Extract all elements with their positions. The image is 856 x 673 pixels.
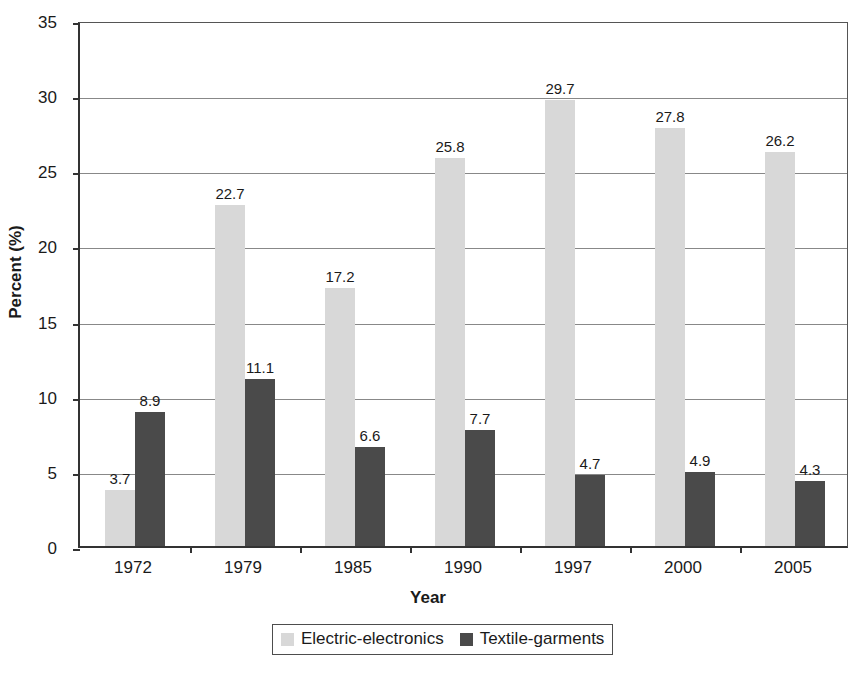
legend-item[interactable]: Electric-electronics xyxy=(281,629,444,649)
x-axis-tick-label: 1979 xyxy=(183,558,303,578)
bar: 4.9 xyxy=(685,472,715,546)
bar-value-label: 29.7 xyxy=(545,80,574,97)
y-axis-tick-label: 0 xyxy=(0,539,57,559)
bar: 11.1 xyxy=(245,379,275,546)
plot-area: 051015202530353.78.922.711.117.26.625.87… xyxy=(78,22,848,548)
x-axis-tick-mark xyxy=(630,546,632,553)
bar: 4.3 xyxy=(795,481,825,546)
x-axis-title: Year xyxy=(0,588,856,608)
bar-value-label: 3.7 xyxy=(110,470,131,487)
bar: 7.7 xyxy=(465,430,495,546)
bar-value-label: 6.6 xyxy=(360,427,381,444)
chart-legend: Electric-electronicsTextile-garments xyxy=(272,624,613,655)
gridline xyxy=(80,98,847,99)
bar-value-label: 27.8 xyxy=(655,108,684,125)
x-axis-tick-mark xyxy=(300,546,302,553)
x-axis-tick-label: 2000 xyxy=(623,558,743,578)
legend-item[interactable]: Textile-garments xyxy=(460,629,605,649)
bar-value-label: 7.7 xyxy=(470,410,491,427)
bar-value-label: 4.7 xyxy=(580,455,601,472)
y-axis-tick-mark xyxy=(73,23,80,25)
y-axis-tick-label: 30 xyxy=(0,88,57,108)
y-axis-tick-label: 15 xyxy=(0,314,57,334)
bar: 25.8 xyxy=(435,158,465,546)
bar: 22.7 xyxy=(215,205,245,546)
bar: 8.9 xyxy=(135,412,165,546)
bar-value-label: 17.2 xyxy=(325,268,354,285)
x-axis-tick-mark xyxy=(410,546,412,553)
x-axis-tick-mark xyxy=(740,546,742,553)
y-axis-tick-label: 35 xyxy=(0,13,57,33)
y-axis-tick-mark xyxy=(73,248,80,250)
legend-swatch-icon xyxy=(281,633,294,646)
bar-value-label: 4.9 xyxy=(690,452,711,469)
x-axis-tick-mark xyxy=(190,546,192,553)
bar: 4.7 xyxy=(575,475,605,546)
y-axis-tick-label: 10 xyxy=(0,389,57,409)
bar-value-label: 22.7 xyxy=(215,185,244,202)
x-axis-tick-label: 2005 xyxy=(733,558,853,578)
y-axis-tick-label: 5 xyxy=(0,464,57,484)
bar-value-label: 11.1 xyxy=(246,359,274,376)
y-axis-tick-mark xyxy=(73,549,80,551)
x-axis-tick-label: 1997 xyxy=(513,558,633,578)
legend-label: Electric-electronics xyxy=(301,629,444,649)
bar: 29.7 xyxy=(545,100,575,546)
y-axis-tick-mark xyxy=(73,474,80,476)
bar-value-label: 25.8 xyxy=(435,138,464,155)
legend-label: Textile-garments xyxy=(480,629,605,649)
bar: 26.2 xyxy=(765,152,795,546)
x-axis-tick-label: 1972 xyxy=(73,558,193,578)
y-axis-tick-mark xyxy=(73,399,80,401)
bar: 3.7 xyxy=(105,490,135,546)
bar-value-label: 4.3 xyxy=(800,461,821,478)
legend-swatch-icon xyxy=(460,633,473,646)
bar: 6.6 xyxy=(355,447,385,546)
bar-value-label: 26.2 xyxy=(765,132,794,149)
x-axis-tick-label: 1990 xyxy=(403,558,523,578)
x-axis-tick-label: 1985 xyxy=(293,558,413,578)
y-axis-tick-mark xyxy=(73,98,80,100)
bar-value-label: 8.9 xyxy=(140,392,161,409)
y-axis-tick-mark xyxy=(73,324,80,326)
y-axis-tick-label: 25 xyxy=(0,163,57,183)
y-axis-tick-label: 20 xyxy=(0,238,57,258)
y-axis-tick-mark xyxy=(73,173,80,175)
x-axis-tick-mark xyxy=(520,546,522,553)
bar: 27.8 xyxy=(655,128,685,546)
bar: 17.2 xyxy=(325,288,355,546)
bar-chart: Percent (%) 051015202530353.78.922.711.1… xyxy=(0,0,856,673)
